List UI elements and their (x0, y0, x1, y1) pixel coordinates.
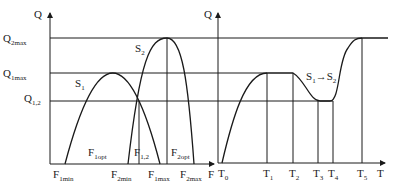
f1min-tick: F1min (53, 168, 74, 183)
f2max-tick: F2max (180, 168, 202, 183)
right-y-axis-label: Q (204, 8, 212, 20)
q2max-label: Q2max (3, 32, 27, 47)
transition-label: S1→S2 (306, 70, 337, 85)
f12-label: F1,2 (134, 146, 149, 161)
q1max-label: Q1max (3, 67, 27, 82)
t0-tick: T0 (218, 167, 229, 182)
f2opt-label: F2opt (171, 146, 190, 161)
t2-tick: T2 (289, 167, 300, 182)
left-y-axis-label: Q (34, 8, 42, 20)
s2-label: S2 (135, 42, 145, 57)
t1-tick: T1 (263, 167, 274, 182)
f-axis-label: F (208, 168, 214, 180)
t4-tick: T4 (328, 167, 339, 182)
diagram: Q Q2max Q1max Q1,2 S1 S2 F1opt F1,2 F2op… (0, 0, 403, 188)
left-chart: Q Q2max Q1max Q1,2 S1 S2 F1opt F1,2 F2op… (3, 8, 362, 183)
q12-label: Q1,2 (24, 92, 41, 107)
t3-tick: T3 (313, 167, 324, 182)
right-chart: Q S1→S2 T0 T1 T2 T3 T4 T5 T (204, 8, 388, 182)
f1opt-label: F1opt (88, 146, 107, 161)
f2min-tick: F2min (111, 168, 132, 183)
f1max-tick: F1max (148, 168, 170, 183)
s1-label: S1 (75, 77, 85, 92)
t5-tick: T5 (357, 167, 368, 182)
t-axis-label: T (377, 167, 384, 179)
